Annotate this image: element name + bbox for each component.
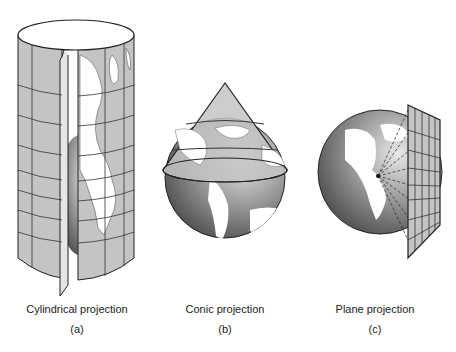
caption-conic: Conic projection (186, 303, 265, 315)
cone-figure (163, 83, 287, 260)
cylinder-top (18, 20, 134, 50)
caption-cylindrical: Cylindrical projection (26, 303, 128, 315)
plane-figure (318, 105, 442, 258)
caption-letter-a: (a) (70, 323, 83, 335)
caption-plane: Plane projection (336, 303, 415, 315)
projection-point (376, 174, 380, 178)
caption-letter-b: (b) (218, 323, 231, 335)
projection-diagram (0, 0, 456, 352)
cylinder-figure (18, 20, 134, 296)
caption-letter-c: (c) (369, 323, 382, 335)
